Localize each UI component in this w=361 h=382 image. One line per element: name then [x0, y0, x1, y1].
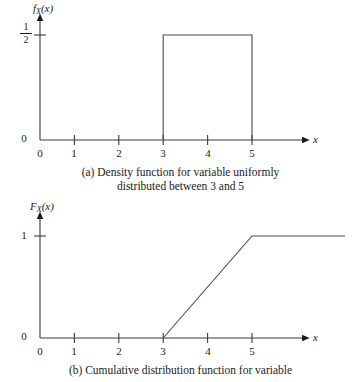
- x-tick-label-3: 3: [156, 148, 170, 159]
- y-tick-label-zero: 0: [17, 331, 31, 342]
- y-tick-label-one-half: 1 2: [19, 22, 33, 45]
- y-tick-label-one: 1: [17, 230, 31, 241]
- x-tick-label-3: 3: [156, 346, 170, 357]
- x-tick-label-1: 1: [67, 346, 81, 357]
- figure-a-caption-line-1: (a) Density function for variable unifor…: [0, 165, 361, 179]
- x-tick-label-0: 0: [33, 346, 47, 357]
- x-tick-label-5: 5: [245, 346, 259, 357]
- x-tick-label-5: 5: [245, 148, 259, 159]
- x-tick-label-1: 1: [67, 148, 81, 159]
- figure-a-caption: (a) Density function for variable unifor…: [0, 165, 361, 193]
- x-tick-label-2: 2: [112, 346, 126, 357]
- x-tick-label-4: 4: [201, 148, 215, 159]
- density-function-figure: fX(x) x 1 2 0 0 1 2 3 4 5 (a) Density fu…: [0, 0, 361, 196]
- x-axis-label: x: [313, 134, 318, 145]
- y-axis-label: fX(x): [33, 3, 53, 16]
- figure-b-caption-line-1: (b) Cumulative distribution function for…: [0, 363, 361, 377]
- cdf-curve: [163, 236, 345, 338]
- density-curve: [163, 35, 252, 140]
- cumulative-distribution-figure: FX(x) x 1 0 0 1 2 3 4 5: [0, 190, 361, 382]
- density-function-plot: [0, 0, 361, 165]
- x-tick-label-0: 0: [33, 148, 47, 159]
- cumulative-distribution-plot: [0, 190, 361, 350]
- y-axis-label: FX(x): [30, 201, 54, 214]
- y-tick-label-zero: 0: [17, 133, 31, 144]
- x-tick-label-2: 2: [112, 148, 126, 159]
- figure-b-caption: (b) Cumulative distribution function for…: [0, 363, 361, 377]
- x-tick-label-4: 4: [201, 346, 215, 357]
- x-axis-label: x: [313, 332, 318, 343]
